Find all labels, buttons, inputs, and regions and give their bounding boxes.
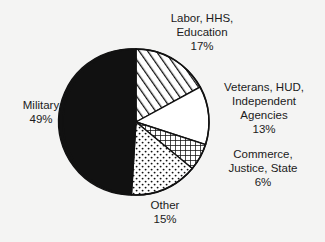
- pie-label-percent: 49%: [8, 112, 74, 126]
- pie-chart-figure: Labor, HHS, Education 17% Veterans, HUD,…: [0, 0, 325, 242]
- pie-label-commerce-justice-state: Commerce, Justice, State 6%: [204, 147, 322, 189]
- pie-label-percent: 15%: [134, 212, 196, 226]
- pie-label-veterans-hud-independent-agencies: Veterans, HUD, Independent Agencies 13%: [206, 80, 322, 136]
- pie-label-line: Agencies: [206, 108, 322, 122]
- pie-label-labor-hhs-education: Labor, HHS, Education 17%: [148, 11, 256, 53]
- pie-label-line: Commerce,: [204, 147, 322, 161]
- pie-label-military: Military 49%: [8, 98, 74, 126]
- pie-label-percent: 13%: [206, 122, 322, 136]
- pie-label-line: Veterans, HUD,: [206, 80, 322, 94]
- pie-label-line: Justice, State: [204, 161, 322, 175]
- pie-label-other: Other 15%: [134, 198, 196, 226]
- pie-label-line: Education: [148, 25, 256, 39]
- pie-label-percent: 17%: [148, 39, 256, 53]
- pie-label-percent: 6%: [204, 175, 322, 189]
- pie-label-line: Military: [8, 98, 74, 112]
- pie-label-line: Other: [134, 198, 196, 212]
- pie-label-line: Labor, HHS,: [148, 11, 256, 25]
- pie-label-line: Independent: [206, 94, 322, 108]
